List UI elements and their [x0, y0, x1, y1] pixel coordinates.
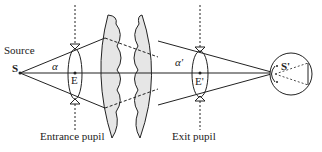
eye-ball	[270, 53, 312, 95]
right-lens-element	[134, 15, 152, 138]
image-point-label: S'	[281, 60, 290, 72]
source-point-label: S	[12, 62, 18, 74]
ray-lower-out	[158, 73, 275, 105]
diagram-canvas: Source S α E α' E' S' Entrance pupil Exi…	[0, 0, 322, 152]
exit-center-label: E'	[195, 75, 204, 87]
eye-dot-lower	[276, 81, 278, 83]
entrance-center-label: E	[71, 74, 78, 86]
entrance-pupil-arrow-top	[70, 44, 80, 49]
eye-dot-upper	[276, 65, 278, 67]
source-label: Source	[4, 44, 35, 56]
exit-pupil-label: Exit pupil	[172, 130, 216, 142]
left-lens-element	[101, 15, 121, 138]
ray-lower-in	[20, 73, 105, 108]
source-point	[19, 72, 22, 75]
entrance-pupil-label: Entrance pupil	[40, 130, 104, 142]
optics-diagram: Source S α E α' E' S' Entrance pupil Exi…	[0, 0, 322, 152]
alpha-prime-label: α'	[175, 56, 184, 68]
alpha-label: α	[52, 60, 58, 72]
entrance-pupil-arrow-bottom	[70, 99, 80, 104]
